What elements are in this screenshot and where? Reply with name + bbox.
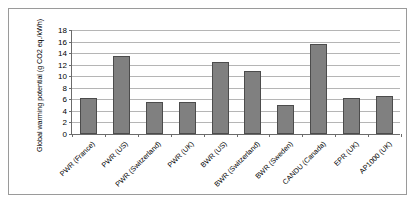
y-axis-tick-label: 12 (58, 62, 67, 70)
x-axis-tick (368, 134, 369, 137)
bar[interactable] (376, 96, 393, 134)
y-axis-tick-label: 14 (58, 50, 67, 58)
y-axis-tick-label: 6 (63, 96, 67, 104)
x-axis-category-label: BWR (US) (199, 140, 228, 169)
x-axis-category-label: PWR (US) (101, 140, 130, 169)
y-axis-tick-label: 8 (63, 85, 67, 93)
y-axis-tick-label: 4 (63, 108, 67, 116)
x-axis-tick (204, 134, 205, 137)
bar[interactable] (80, 98, 97, 134)
x-axis-tick (401, 134, 402, 137)
bar[interactable] (277, 105, 294, 134)
bar[interactable] (244, 71, 261, 134)
y-axis-tick-label: 0 (63, 131, 67, 139)
bar-slot (302, 31, 335, 134)
x-axis-category-label: EPR (UK) (332, 140, 360, 168)
x-axis-tick (335, 134, 336, 137)
bar[interactable] (179, 102, 196, 134)
bar-slot (269, 31, 302, 134)
y-axis-tick-label: 18 (58, 27, 67, 35)
y-axis-tick-label: 2 (63, 119, 67, 127)
bar[interactable] (113, 56, 130, 134)
bar-slot (105, 31, 138, 134)
bar-slot (335, 31, 368, 134)
bar-slot (237, 31, 270, 134)
x-axis-tick (237, 134, 238, 137)
x-axis-tick (105, 134, 106, 137)
x-axis-tick (302, 134, 303, 137)
bar-slot (138, 31, 171, 134)
x-axis-tick (171, 134, 172, 137)
bar-slot (171, 31, 204, 134)
bar-slot (368, 31, 401, 134)
x-axis-category-label: PWR (UK) (166, 140, 195, 169)
bar-slot (204, 31, 237, 134)
x-axis-tick (138, 134, 139, 137)
y-axis-title: Global warming potential (g CO2 eq./kWh) (34, 22, 46, 152)
bar-slot (72, 31, 105, 134)
bar[interactable] (212, 62, 229, 134)
chart-frame: Global warming potential (g CO2 eq./kWh)… (8, 8, 407, 195)
x-axis-category-label: PWR (France) (59, 140, 97, 178)
bar[interactable] (343, 98, 360, 134)
plot-area: 024681012141618 (71, 31, 400, 135)
x-axis-category-label: AP1000 (UK) (358, 140, 394, 176)
bar[interactable] (146, 102, 163, 134)
x-axis-tick (72, 134, 73, 137)
x-axis-tick (269, 134, 270, 137)
bar[interactable] (310, 44, 327, 134)
y-axis-tick-label: 16 (58, 39, 67, 47)
y-axis-tick-label: 10 (58, 73, 67, 81)
